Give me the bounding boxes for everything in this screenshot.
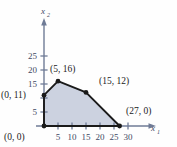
vertex-label-5-16: (5, 16) (50, 64, 75, 75)
vertex-marker-0-0 (42, 124, 47, 129)
y-tick-label-25: 25 (28, 51, 38, 61)
chart-svg: 5 10 15 20 25 30 5 15 20 25 x 1 x 2 (0, … (0, 0, 177, 147)
vertex-label-27-0: (27, 0) (126, 106, 151, 117)
linear-programming-feasible-region-chart: 5 10 15 20 25 30 5 15 20 25 x 1 x 2 (0, … (0, 0, 177, 147)
x-tick-label-5: 5 (56, 132, 61, 142)
vertex-marker-0-11 (42, 93, 47, 98)
y-axis-label-subscript: 2 (47, 12, 50, 18)
vertex-marker-27-0 (117, 124, 122, 129)
x-axis-label: x (150, 123, 155, 133)
y-tick-label-20: 20 (28, 65, 38, 75)
y-axis-label: x (40, 6, 45, 16)
x-tick-label-20: 20 (96, 132, 106, 142)
vertex-label-0-11: (0, 11) (1, 90, 26, 101)
vertex-marker-15-12 (84, 90, 89, 95)
y-tick-label-5: 5 (33, 107, 38, 117)
x-tick-label-10: 10 (68, 132, 78, 142)
y-tick-label-15: 15 (28, 79, 38, 89)
x-axis-label-subscript: 1 (157, 129, 160, 135)
vertex-marker-5-16 (56, 79, 61, 84)
x-tick-label-25: 25 (110, 132, 120, 142)
x-tick-label-30: 30 (124, 132, 134, 142)
vertex-label-0-0: (0, 0) (4, 132, 25, 143)
vertex-label-15-12: (15, 12) (99, 76, 129, 87)
x-tick-label-15: 15 (82, 132, 92, 142)
